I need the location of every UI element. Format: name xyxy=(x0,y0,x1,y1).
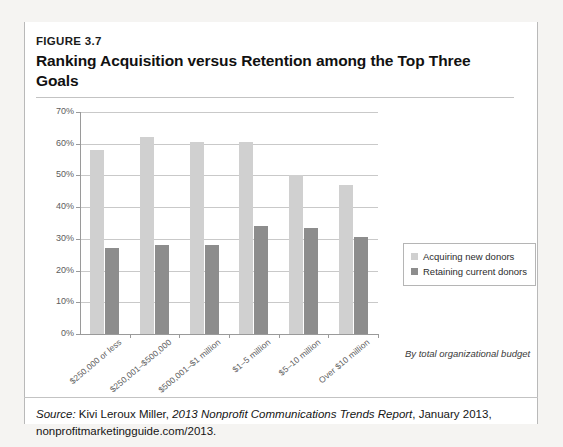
bar xyxy=(239,142,253,334)
bar-chart: 0%10%20%30%40%50%60%70% $250,000 or less… xyxy=(24,105,538,395)
y-axis-tick-label: 10% xyxy=(56,296,74,306)
y-axis-tick xyxy=(76,112,80,113)
x-axis-category-label: $250,000 or less xyxy=(67,337,123,386)
gridline xyxy=(80,271,378,272)
source-work-title: 2013 Nonprofit Communications Trends Rep… xyxy=(172,408,412,420)
source-label: Source: xyxy=(36,408,76,420)
y-axis-tick-label: 70% xyxy=(56,106,74,116)
figure-title: Ranking Acquisition versus Retention amo… xyxy=(36,51,506,91)
bar xyxy=(90,150,104,334)
y-axis-tick-label: 40% xyxy=(56,201,74,211)
y-axis-tick-label: 60% xyxy=(56,138,74,148)
gridline xyxy=(80,175,378,176)
y-axis-tick-label: 50% xyxy=(56,169,74,179)
gridline xyxy=(80,207,378,208)
y-axis-tick xyxy=(76,175,80,176)
legend-swatch-icon xyxy=(411,268,418,275)
bar xyxy=(155,245,169,334)
axis-note: By total organizational budget xyxy=(405,348,535,361)
bar xyxy=(289,175,303,334)
y-axis-tick-label: 20% xyxy=(56,265,74,275)
x-axis-category-label: $1–5 million xyxy=(230,337,272,375)
bar xyxy=(105,248,119,334)
y-axis-tick xyxy=(76,239,80,240)
x-axis-category-label: Over $10 million xyxy=(317,337,372,385)
figure-page: FIGURE 3.7 Ranking Acquisition versus Re… xyxy=(0,0,563,447)
bar xyxy=(354,237,368,334)
x-axis-labels: $250,000 or less$250,001–$500,000$500,00… xyxy=(80,337,410,397)
chart-legend: Acquiring new donorsRetaining current do… xyxy=(403,243,536,286)
gridline xyxy=(80,239,378,240)
y-axis-line xyxy=(80,112,81,334)
bar xyxy=(190,142,204,334)
bar xyxy=(205,245,219,334)
x-axis-category-label: $5–10 million xyxy=(276,337,322,378)
legend-item-label: Retaining current donors xyxy=(423,266,527,277)
y-axis-tick xyxy=(76,144,80,145)
y-axis-tick xyxy=(76,207,80,208)
y-axis-tick-label: 30% xyxy=(56,233,74,243)
header-divider xyxy=(36,97,514,98)
bar xyxy=(339,185,353,334)
y-axis-tick xyxy=(76,271,80,272)
gridline xyxy=(80,112,378,113)
legend-item-label: Acquiring new donors xyxy=(423,251,514,262)
bar xyxy=(254,226,268,334)
bar xyxy=(304,228,318,334)
bar xyxy=(140,137,154,334)
gridline xyxy=(80,144,378,145)
source-author: Kivi Leroux Miller, xyxy=(79,408,169,420)
figure-number: FIGURE 3.7 xyxy=(36,34,514,49)
y-axis-labels: 0%10%20%30%40%50%60%70% xyxy=(32,112,74,334)
y-axis-tick xyxy=(76,302,80,303)
legend-item: Acquiring new donors xyxy=(411,249,527,264)
gridline xyxy=(80,302,378,303)
legend-swatch-icon xyxy=(411,253,418,260)
figure-header: FIGURE 3.7 Ranking Acquisition versus Re… xyxy=(36,34,514,91)
plot-area xyxy=(80,112,378,334)
y-axis-tick-label: 0% xyxy=(61,328,74,338)
y-axis-tick xyxy=(76,334,80,335)
source-divider xyxy=(24,397,538,398)
source-citation: Source: Kivi Leroux Miller, 2013 Nonprof… xyxy=(36,406,528,439)
legend-item: Retaining current donors xyxy=(411,264,527,279)
